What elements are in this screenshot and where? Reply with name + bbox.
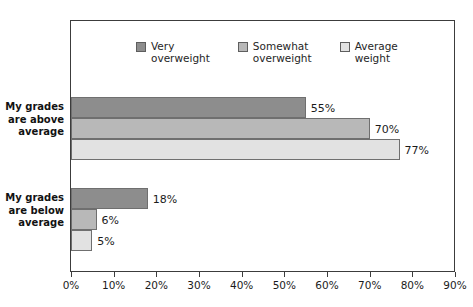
- legend-swatch-icon: [136, 42, 146, 52]
- bar-value-label: 70%: [375, 123, 399, 136]
- chart-legend: Very overweightSomewhat overweightAverag…: [136, 40, 398, 64]
- legend-item-1[interactable]: Somewhat overweight: [238, 40, 312, 64]
- category-label: My grades are above average: [0, 101, 64, 139]
- bar[interactable]: [71, 209, 97, 230]
- x-tick-mark: [327, 272, 328, 277]
- x-tick-mark: [242, 272, 243, 277]
- x-tick-mark: [114, 272, 115, 277]
- bar-chart: Very overweightSomewhat overweightAverag…: [0, 0, 473, 307]
- x-tick-label: 10%: [102, 279, 125, 291]
- bar[interactable]: [71, 139, 400, 160]
- category-label: My grades are below average: [0, 192, 64, 230]
- chart-title: [0, 0, 473, 5]
- x-tick-label: 80%: [401, 279, 424, 291]
- legend-item-2[interactable]: Average weight: [340, 40, 398, 64]
- x-tick-label: 20%: [145, 279, 168, 291]
- bar-value-label: 18%: [153, 193, 177, 206]
- legend-item-label: Average weight: [355, 40, 398, 64]
- x-tick-label: 40%: [230, 279, 253, 291]
- x-tick-mark: [284, 272, 285, 277]
- x-tick-mark: [199, 272, 200, 277]
- legend-item-label: Somewhat overweight: [253, 40, 312, 64]
- bar-value-label: 55%: [311, 102, 335, 115]
- bar-value-label: 6%: [102, 214, 119, 227]
- bar[interactable]: [71, 118, 370, 139]
- x-tick-label: 70%: [358, 279, 381, 291]
- bar[interactable]: [71, 188, 148, 209]
- legend-item-0[interactable]: Very overweight: [136, 40, 210, 64]
- bar[interactable]: [71, 97, 306, 118]
- x-tick-mark: [455, 272, 456, 277]
- x-tick-mark: [156, 272, 157, 277]
- legend-swatch-icon: [340, 42, 350, 52]
- x-tick-mark: [71, 272, 72, 277]
- legend-swatch-icon: [238, 42, 248, 52]
- x-tick-label: 0%: [63, 279, 80, 291]
- x-tick-label: 60%: [315, 279, 338, 291]
- bar-value-label: 5%: [97, 235, 114, 248]
- x-tick-label: 50%: [273, 279, 296, 291]
- x-tick-mark: [412, 272, 413, 277]
- x-tick-label: 30%: [187, 279, 210, 291]
- bar-value-label: 77%: [405, 144, 429, 157]
- bar[interactable]: [71, 230, 92, 251]
- x-tick-label: 90%: [443, 279, 466, 291]
- legend-item-label: Very overweight: [151, 40, 210, 64]
- x-tick-mark: [370, 272, 371, 277]
